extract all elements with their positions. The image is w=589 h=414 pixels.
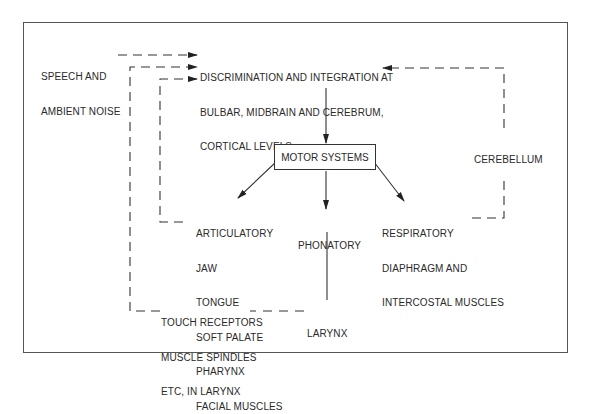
node-receptors-line: TOUCH RECEPTORS (161, 317, 263, 329)
node-receptors-line: ETC, IN LARYNX (161, 386, 263, 398)
node-cerebellum-label: CEREBELLUM (474, 154, 543, 166)
node-respiratory-line: INTERCOSTAL MUSCLES (382, 297, 504, 309)
node-input: SPEECH AND AMBIENT NOISE (41, 48, 120, 129)
node-motor-systems-label: MOTOR SYSTEMS (281, 152, 369, 163)
node-integration-line: DISCRIMINATION AND INTEGRATION AT (200, 72, 393, 84)
node-phonatory: PHONATORY (298, 217, 361, 263)
edge-motor-to-respiratory (374, 162, 404, 201)
edge-motor-to-articulatory (238, 162, 276, 198)
node-input-line: AMBIENT NOISE (41, 106, 120, 118)
node-integration-line: BULBAR, MIDBRAIN AND CEREBRUM, (200, 107, 393, 119)
node-receptors-line: MUSCLE SPINDLES (161, 352, 263, 364)
node-articulatory-line: JAW (196, 263, 283, 275)
edge-articulatory-to-integration (160, 79, 197, 222)
node-articulatory-line: ARTICULATORY (196, 228, 283, 240)
node-motor-systems: MOTOR SYSTEMS (274, 144, 376, 170)
node-larynx-label: LARYNX (307, 328, 347, 340)
node-respiratory-line: DIAPHRAGM AND (382, 263, 504, 275)
edge-receptors-to-integration (130, 67, 197, 311)
node-larynx: LARYNX (307, 305, 347, 351)
node-respiratory-line: RESPIRATORY (382, 228, 504, 240)
node-receptors: TOUCH RECEPTORS MUSCLE SPINDLES ETC, IN … (161, 294, 263, 409)
edge-cerebellum-to-integration (383, 68, 504, 128)
node-cerebellum: CEREBELLUM (474, 131, 543, 177)
node-respiratory: RESPIRATORY DIAPHRAGM AND INTERCOSTAL MU… (382, 205, 504, 320)
node-input-line: SPEECH AND (41, 71, 120, 83)
node-phonatory-label: PHONATORY (298, 240, 361, 252)
